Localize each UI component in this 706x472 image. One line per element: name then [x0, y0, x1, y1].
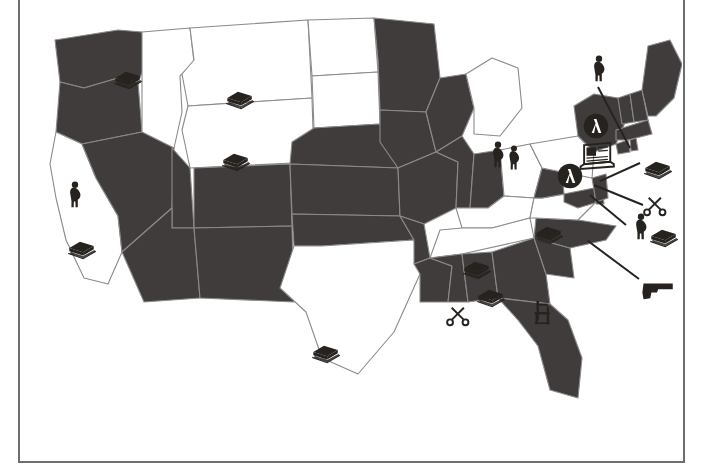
us-map [22, 2, 682, 432]
pregnant-figure-icon[interactable] [584, 54, 614, 84]
book-icon[interactable] [640, 150, 674, 184]
lambda-badge-icon[interactable] [556, 162, 584, 190]
state-north-dakota[interactable] [308, 18, 378, 76]
book-icon[interactable] [308, 334, 342, 368]
pregnant-figure-icon[interactable] [60, 180, 90, 210]
pregnant-figure-icon[interactable] [500, 144, 528, 172]
book-icon[interactable] [459, 250, 493, 284]
state-new-mexico[interactable] [194, 226, 294, 302]
state-michigan[interactable] [466, 58, 522, 136]
book-icon[interactable] [110, 60, 144, 94]
state-rhode-island[interactable] [630, 138, 638, 151]
scissors-icon[interactable] [446, 302, 472, 328]
book-icon[interactable] [531, 215, 565, 249]
book-icon[interactable] [218, 142, 252, 176]
page-border-bottom [18, 461, 685, 463]
scanned-page [0, 0, 706, 472]
state-maine[interactable] [642, 40, 682, 116]
state-south-dakota[interactable] [312, 72, 380, 128]
state-kansas[interactable] [290, 164, 400, 216]
handgun-icon[interactable] [639, 270, 675, 306]
book-icon[interactable] [64, 230, 98, 264]
chair-icon[interactable] [529, 298, 559, 328]
book-icon[interactable] [646, 218, 680, 252]
state-louisiana[interactable] [414, 258, 452, 302]
page-border-right [683, 0, 685, 463]
lambda-badge-icon[interactable] [582, 112, 610, 140]
page-border-left [18, 0, 20, 463]
book-icon[interactable] [222, 80, 256, 114]
state-texas[interactable] [280, 240, 420, 374]
state-minnesota[interactable] [374, 18, 440, 112]
state-connecticut[interactable] [616, 140, 630, 154]
